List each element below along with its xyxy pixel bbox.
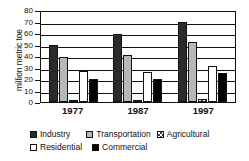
bar-commercial-1987[interactable] [153,79,162,102]
bar-residential-1977[interactable] [79,71,88,102]
legend-label-residential: Residential [40,143,82,152]
bar-chart: million metric toe 80706050403020100 197… [0,0,249,161]
legend-label-industry: Industry [40,130,70,139]
bar-residential-1997[interactable] [208,66,217,102]
x-tick-1987: 1987 [108,105,168,116]
x-tick-1997: 1997 [173,105,233,116]
bar-residential-1987[interactable] [143,72,152,102]
bar-agricultural-1997[interactable] [198,99,207,102]
plot-area [40,11,236,103]
chart-legend: IndustryTransportationAgricultural Resid… [30,128,245,154]
bar-agricultural-1977[interactable] [69,100,78,102]
bar-commercial-1977[interactable] [89,79,98,102]
y-tick-70: 70 [24,19,33,27]
y-tick-30: 30 [24,65,33,73]
residential-swatch [30,144,37,151]
y-tick-40: 40 [24,53,33,61]
legend-item-commercial[interactable]: Commercial [92,143,147,152]
x-axis-tick-labels: 197719871997 [40,105,236,119]
bar-transportation-1987[interactable] [123,55,132,102]
commercial-swatch [92,144,99,151]
legend-item-agricultural[interactable]: Agricultural [157,130,210,139]
transportation-swatch [86,131,93,138]
bar-group-1977 [49,12,98,102]
legend-label-agricultural: Agricultural [167,130,210,139]
bar-transportation-1997[interactable] [188,42,197,102]
y-tick-10: 10 [24,88,33,96]
industry-swatch [30,131,37,138]
x-tick-1977: 1977 [43,105,103,116]
y-tick-60: 60 [24,30,33,38]
legend-row-primary: IndustryTransportationAgricultural [30,128,245,141]
y-tick-50: 50 [24,42,33,50]
bar-transportation-1977[interactable] [59,57,68,102]
bar-commercial-1997[interactable] [218,73,227,102]
bar-industry-1987[interactable] [113,34,122,102]
legend-item-transportation[interactable]: Transportation [86,130,151,139]
y-tick-80: 80 [24,7,33,15]
y-tick-20: 20 [24,76,33,84]
bar-industry-1977[interactable] [49,45,58,103]
y-axis-tick-labels: 80706050403020100 [17,11,33,103]
bars-layer [41,12,235,102]
legend-row-secondary: ResidentialCommercial [30,141,245,154]
bar-group-1987 [113,12,162,102]
legend-item-residential[interactable]: Residential [30,143,82,152]
agricultural-swatch [157,131,164,138]
legend-label-commercial: Commercial [102,143,147,152]
bar-industry-1997[interactable] [178,22,187,103]
legend-label-transportation: Transportation [96,130,151,139]
legend-item-industry[interactable]: Industry [30,130,70,139]
y-tickmark-0 [35,103,40,104]
bar-agricultural-1987[interactable] [133,100,142,102]
bar-group-1997 [178,12,227,102]
y-tick-0: 0 [29,99,33,107]
